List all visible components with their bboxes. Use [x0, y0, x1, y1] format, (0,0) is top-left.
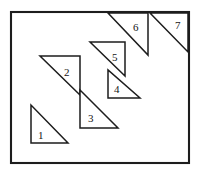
triangle-2-shape[interactable]	[40, 56, 80, 95]
figure-root: 1 2 3 4 5 6 7	[0, 0, 206, 178]
triangle-label-1: 1	[38, 130, 44, 141]
triangle-label-2: 2	[64, 67, 70, 78]
triangle-label-6: 6	[133, 22, 139, 33]
triangle-label-4: 4	[114, 84, 120, 95]
triangle-label-5: 5	[112, 52, 118, 63]
triangle-7-shape[interactable]	[150, 13, 188, 52]
triangle-label-7: 7	[175, 20, 181, 31]
triangle-1-shape[interactable]	[31, 105, 68, 143]
triangle-label-3: 3	[88, 113, 94, 124]
